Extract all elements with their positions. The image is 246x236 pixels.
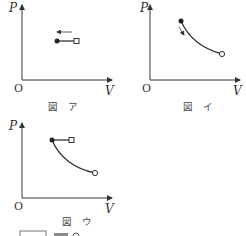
p-axis-label: P [8,119,18,133]
filled-point-icon [179,19,184,24]
open-square-icon [74,39,79,44]
v-axis-label: V [233,84,243,98]
open-point-icon [92,170,97,175]
v-axis-label: V [105,202,115,216]
p-axis-label: P [139,1,149,15]
footer-fragment [20,231,79,236]
cut-text [54,233,68,236]
p-axis-label: P [8,1,18,15]
diagram-u: P O V 図 ウ [8,119,115,227]
process-curve [52,140,95,173]
process-curve [181,21,222,54]
v-axis-label: V [105,84,115,98]
filled-point-icon [50,138,55,143]
origin-label: O [142,82,151,95]
caption-u: 図 ウ [62,216,92,227]
caption-i: 図 イ [183,101,213,112]
filled-point-icon [55,39,60,44]
diagram-a: P O V 図 ア [8,1,115,112]
answer-box [20,231,46,236]
origin-label: O [14,82,23,95]
caption-a: 図 ア [48,101,78,112]
cut-glyph [73,233,79,236]
open-point-icon [219,51,224,56]
direction-arrow [179,27,184,35]
pv-diagrams: P O V 図 ア P O V 図 イ P O V 図 ウ [0,0,246,236]
open-square-icon [69,138,74,143]
origin-label: O [14,200,23,213]
diagram-i: P O V 図 イ [139,1,243,112]
